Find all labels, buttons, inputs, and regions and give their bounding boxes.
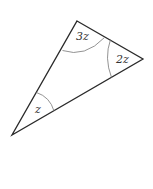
angle-arc-right bbox=[107, 40, 111, 78]
angle-label-bottom-left: z bbox=[34, 103, 41, 116]
angle-label-top: 3z bbox=[76, 30, 89, 43]
angle-label-right: 2z bbox=[115, 53, 129, 66]
triangle-diagram: 3z 2z z bbox=[0, 0, 153, 189]
